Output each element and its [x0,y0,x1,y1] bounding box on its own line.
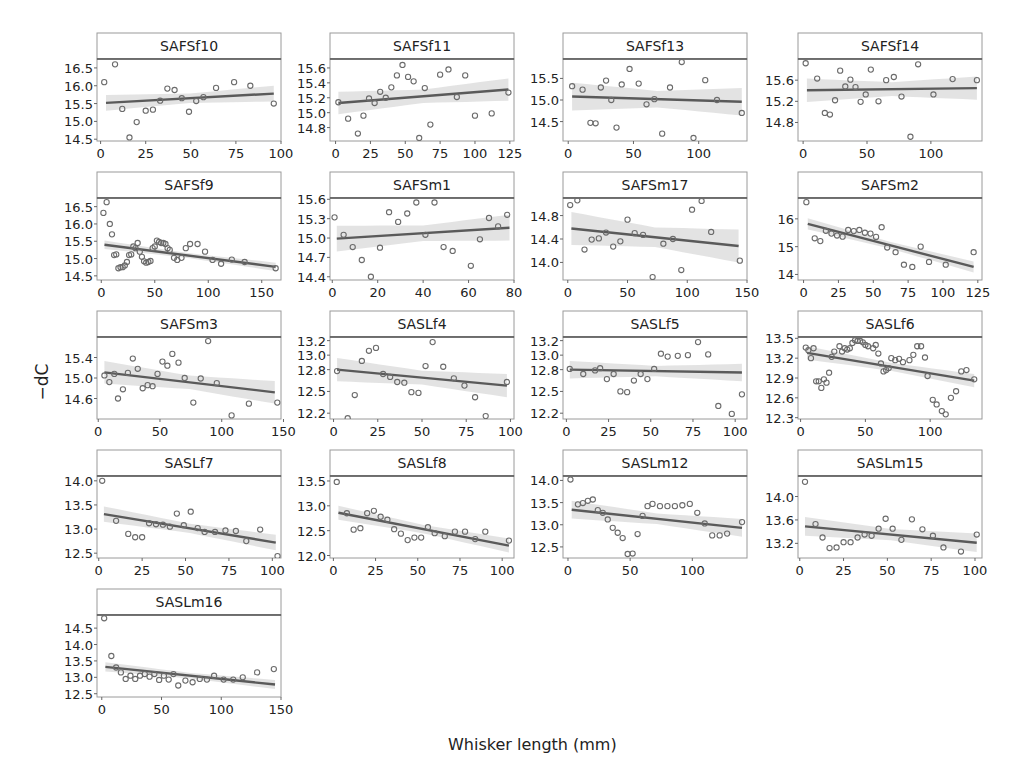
x-tick-label: 60 [460,285,477,300]
x-tick-label: 0 [97,285,105,300]
facet-panel-SAFSm2: SAFSm21415160255075100125 [777,172,990,300]
x-tick-label: 75 [452,563,469,578]
facet-panel-SASLf4: SASLf412.212.512.813.013.20255075100 [297,311,523,439]
faceted-scatter-figure: SAFSf1014.515.015.516.016.50255075100SAF… [0,0,1016,763]
x-tick-label: 50 [146,285,163,300]
facet-title: SASLf5 [630,316,679,332]
x-tick-label: 25 [134,563,151,578]
x-tick-label: 50 [622,563,639,578]
facet-title: SAFSm2 [861,177,919,193]
y-tick-label: 16.5 [64,200,93,215]
y-tick-label: 14.0 [765,490,794,505]
facet-panel-SAFSf10: SAFSf1014.515.015.516.016.50255075100 [64,33,293,161]
y-tick-label: 14.8 [297,121,326,136]
facet-title: SASLm12 [622,455,689,471]
x-tick-label: 50 [625,146,642,161]
y-tick-label: 12.5 [297,524,326,539]
facet-title: SASLf4 [397,316,446,332]
facet-panel-SASLm15: SASLm1513.213.614.00255075100 [765,450,987,578]
x-tick-label: 25 [137,146,154,161]
x-tick-label: 100 [209,424,234,439]
y-tick-label: 13.0 [297,348,326,363]
facet-panel-SAFSm1: SAFSm114.414.715.015.315.6020406080 [297,172,522,300]
x-tick-label: 100 [498,424,523,439]
y-tick-label: 14.0 [64,638,93,653]
y-tick-label: 16.0 [64,79,93,94]
x-tick-label: 100 [209,702,234,717]
x-tick-label: 50 [183,146,200,161]
x-tick-label: 75 [221,563,238,578]
facet-title: SASLm16 [156,594,223,610]
y-tick-label: 13.5 [64,498,93,513]
x-tick-label: 0 [564,146,572,161]
y-tick-label: 14.5 [64,132,93,147]
facet-title: SASLf7 [164,455,213,471]
y-tick-label: 14.5 [64,269,93,284]
y-tick-label: 15.5 [64,97,93,112]
x-tick-label: 100 [680,563,705,578]
facet-title: SAFSf11 [393,38,451,54]
y-tick-label: 13.0 [297,499,326,514]
facet-panel-SASLf5: SASLf512.212.512.813.013.20255075100 [530,311,748,439]
x-tick-label: 25 [600,424,617,439]
x-tick-label: 100 [686,146,711,161]
y-tick-label: 13.5 [765,331,794,346]
x-axis-label: Whisker length (mm) [448,735,617,754]
facet-panel-SASLf6: SASLf612.312.612.913.213.5050100 [765,311,982,439]
y-tick-label: 12.3 [765,411,794,426]
y-tick-label: 15 [777,240,794,255]
y-tick-label: 13.0 [64,522,93,537]
x-tick-label: 0 [329,424,337,439]
x-tick-label: 50 [397,146,414,161]
y-tick-label: 15.0 [530,93,559,108]
y-tick-label: 12.5 [64,687,93,702]
x-tick-label: 50 [859,146,876,161]
y-tick-label: 14.4 [530,232,559,247]
x-tick-label: 25 [830,285,847,300]
y-tick-label: 15.3 [297,212,326,227]
y-tick-label: 15.0 [297,231,326,246]
x-tick-label: 80 [506,285,523,300]
y-tick-label: 14 [777,267,794,282]
y-tick-label: 14.8 [530,209,559,224]
x-tick-label: 0 [799,285,807,300]
x-tick-label: 0 [564,563,572,578]
facet-title: SAFSf9 [164,177,213,193]
x-tick-label: 50 [410,563,427,578]
y-tick-label: 13.5 [530,496,559,511]
y-tick-label: 12.5 [297,384,326,399]
y-tick-label: 12.5 [64,546,93,561]
x-tick-label: 100 [918,146,943,161]
y-tick-label: 13.2 [297,334,326,349]
facet-title: SAFSm1 [393,177,451,193]
y-tick-label: 14.6 [64,392,93,407]
x-tick-label: 0 [329,563,337,578]
x-tick-label: 25 [835,563,852,578]
x-tick-label: 0 [562,424,570,439]
x-tick-label: 25 [369,424,386,439]
y-tick-label: 16 [777,212,794,227]
x-tick-label: 0 [331,146,339,161]
x-tick-label: 50 [177,563,194,578]
facet-panel-SAFSm3: SAFSm314.615.015.4050100150 [64,311,296,439]
facet-panel-SASLm12: SASLm1212.513.013.514.0050100 [530,450,747,578]
y-tick-label: 14.4 [297,270,326,285]
facet-title: SAFSm17 [622,177,689,193]
y-tick-label: 15.2 [765,94,794,109]
facet-title: SAFSf14 [861,38,919,54]
x-tick-label: 40 [415,285,432,300]
facet-panel-SAFSf9: SAFSf914.515.015.516.016.5050100150 [64,172,281,300]
x-tick-label: 75 [900,285,917,300]
y-tick-label: 12.8 [297,363,326,378]
facet-panel-SASLm16: SASLm1612.513.013.514.014.5050100150 [64,589,293,717]
y-tick-label: 15.5 [64,234,93,249]
x-tick-label: 50 [414,424,431,439]
x-tick-label: 50 [153,702,170,717]
x-tick-label: 25 [362,146,379,161]
facet-panel-SAFSm17: SAFSm1714.014.414.8050100150 [530,172,759,300]
x-tick-label: 100 [963,563,988,578]
y-tick-label: 14.5 [530,115,559,130]
y-tick-label: 15.0 [297,106,326,121]
x-tick-label: 0 [796,424,804,439]
y-tick-label: 14.7 [297,250,326,265]
